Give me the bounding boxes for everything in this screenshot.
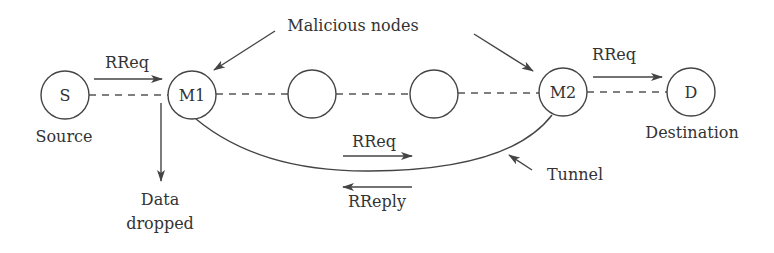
data-dropped-line2: dropped [126, 214, 194, 233]
rreq-m2-d-label: RReq [592, 45, 636, 64]
arrow-malicious-m1 [214, 31, 275, 70]
node-destination-label: D [685, 83, 698, 102]
arrow-malicious-m2 [474, 34, 533, 71]
source-caption: Source [36, 127, 93, 146]
rreply-tunnel-label: RReply [348, 192, 406, 211]
node-intermediate-2 [410, 70, 458, 118]
node-m2-label: M2 [550, 83, 577, 102]
rreq-tunnel-label: RReq [352, 132, 396, 151]
node-intermediate-1 [288, 70, 336, 118]
data-dropped-line1: Data [141, 190, 180, 209]
node-m1-label: M1 [179, 86, 206, 105]
malicious-nodes-label: Malicious nodes [287, 16, 418, 35]
arrow-tunnel-pointer [509, 155, 532, 170]
node-source-label: S [60, 86, 71, 105]
tunnel-label: Tunnel [547, 165, 603, 184]
rreq-s-m1-label: RReq [105, 53, 149, 72]
destination-caption: Destination [645, 123, 738, 142]
wormhole-attack-diagram: S M1 M2 D Source Destination Malicious n… [0, 0, 774, 253]
